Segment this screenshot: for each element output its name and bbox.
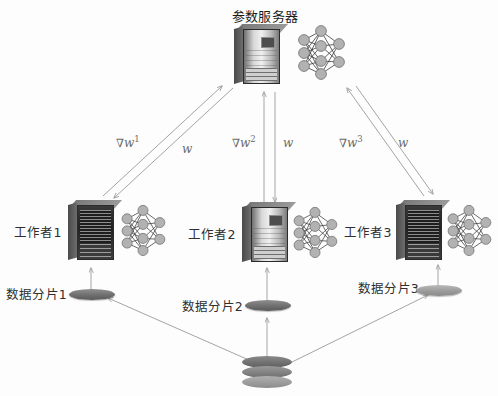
edge-label-weights-1: w — [182, 142, 192, 156]
worker-2-neural-network-icon — [288, 204, 342, 264]
worker-1-neural-network-icon — [116, 202, 170, 262]
worker-2-label: 工作者2 — [188, 224, 236, 243]
data-shard-3-disk-icon — [416, 285, 462, 296]
edge-label-weights-3: w — [398, 136, 408, 150]
data-shard-1-label: 数据分片1 — [6, 284, 67, 303]
worker-3-label: 工作者3 — [344, 222, 392, 241]
edge-label-gradient-2: ∇w2 — [232, 134, 256, 150]
edge-label-gradient-1: ∇w1 — [116, 134, 140, 150]
data-shard-3-label: 数据分片3 — [358, 278, 419, 297]
parameter-server-neural-network-icon — [294, 22, 348, 82]
edge-label-weights-2: w — [283, 136, 293, 150]
data-shard-2-disk-icon — [245, 300, 291, 311]
edge-label-gradient-3: ∇w3 — [339, 134, 363, 150]
worker-3-neural-network-icon — [442, 202, 496, 262]
worker-3-rack-icon — [396, 200, 442, 260]
datastore-stack-icon — [242, 356, 292, 390]
diagram-canvas: 参数服务器 ∇w1 w ∇w2 w ∇w3 — [0, 0, 498, 396]
worker-2-rack-icon — [242, 202, 288, 262]
edge-datastore-shard3 — [288, 295, 428, 364]
worker-1-label: 工作者1 — [14, 222, 62, 241]
data-shard-2-label: 数据分片2 — [182, 296, 243, 315]
edge-weights-3 — [356, 86, 433, 194]
parameter-server-label: 参数服务器 — [232, 6, 298, 25]
worker-1-rack-icon — [68, 200, 114, 260]
parameter-server-rack-icon — [234, 24, 280, 84]
data-shard-1-disk-icon — [69, 289, 115, 300]
